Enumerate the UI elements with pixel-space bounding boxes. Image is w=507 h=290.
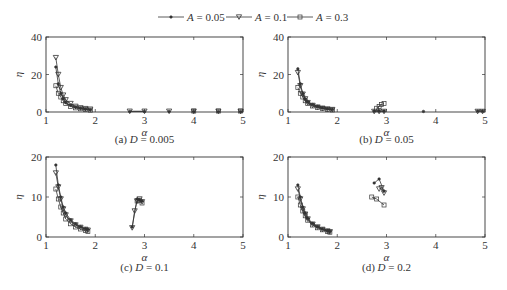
series	[54, 84, 243, 113]
series	[296, 86, 386, 112]
legend-label: A = 0.3	[315, 11, 349, 23]
dot-marker	[55, 164, 58, 167]
x-tick-label: 4	[433, 114, 439, 126]
y-axis-label: η	[12, 72, 24, 77]
y-axis-label: η	[12, 194, 24, 199]
x-tick-label: 2	[335, 114, 341, 126]
x-tick-label: 5	[240, 114, 246, 126]
plot-frame	[288, 37, 485, 112]
series	[53, 55, 243, 113]
x-tick-label: 1	[43, 239, 49, 251]
x-tick-label: 5	[482, 239, 488, 251]
y-tick-label: 0	[279, 106, 285, 118]
y-tick-label: 20	[31, 151, 43, 163]
x-tick-label: 5	[240, 239, 246, 251]
panel-caption: (d) D = 0.2	[362, 261, 411, 274]
legend-label: A = 0.05	[186, 11, 225, 23]
plot-frame	[46, 37, 243, 112]
y-tick-label: 0	[279, 231, 285, 243]
panel-caption: (c) D = 0.1	[120, 261, 168, 274]
x-tick-label: 1	[285, 114, 291, 126]
series	[296, 195, 386, 234]
x-tick-label: 1	[285, 239, 291, 251]
y-axis-label: η	[254, 72, 266, 77]
figure: A = 0.05A = 0.1A = 0.31234502040αη(a) D …	[0, 0, 507, 290]
y-tick-label: 20	[31, 69, 43, 81]
panel-d: 1234501020αη(d) D = 0.2	[254, 151, 488, 274]
legend-label: A = 0.1	[254, 11, 287, 23]
x-tick-label: 3	[142, 239, 148, 251]
dot-marker	[422, 110, 425, 113]
x-tick-label: 3	[384, 114, 390, 126]
x-tick-label: 2	[93, 114, 99, 126]
y-axis-label: η	[254, 194, 266, 199]
dot-marker	[170, 16, 173, 19]
dot-marker	[297, 184, 300, 187]
x-tick-label: 5	[482, 114, 488, 126]
y-tick-label: 20	[273, 69, 285, 81]
series	[297, 178, 386, 233]
series	[295, 186, 386, 235]
legend: A = 0.05A = 0.1A = 0.3	[158, 11, 349, 23]
dot-marker	[297, 68, 300, 71]
y-tick-label: 20	[273, 151, 285, 163]
y-tick-label: 10	[31, 191, 43, 203]
x-tick-label: 2	[93, 239, 99, 251]
panel-caption: (a) D = 0.005	[115, 133, 175, 146]
x-tick-label: 3	[384, 239, 390, 251]
x-tick-label: 2	[335, 239, 341, 251]
y-tick-label: 10	[273, 191, 285, 203]
panel-b: 1234502040αη(b) D = 0.05	[254, 31, 488, 146]
x-tick-label: 4	[433, 239, 439, 251]
panel-c: 1234501020αη(c) D = 0.1	[12, 151, 246, 274]
dot-marker	[378, 178, 381, 181]
series	[53, 171, 144, 233]
x-tick-label: 3	[142, 114, 148, 126]
y-tick-label: 0	[37, 106, 43, 118]
dot-marker	[373, 182, 376, 185]
y-tick-label: 40	[273, 31, 285, 43]
chart-canvas: A = 0.05A = 0.1A = 0.31234502040αη(a) D …	[0, 0, 507, 290]
x-tick-label: 1	[43, 114, 49, 126]
x-tick-label: 4	[191, 114, 197, 126]
panel-caption: (b) D = 0.05	[359, 133, 414, 146]
y-tick-label: 0	[37, 231, 43, 243]
y-tick-label: 40	[31, 31, 43, 43]
panel-a: 1234502040αη(a) D = 0.005	[12, 31, 246, 146]
x-tick-label: 4	[191, 239, 197, 251]
